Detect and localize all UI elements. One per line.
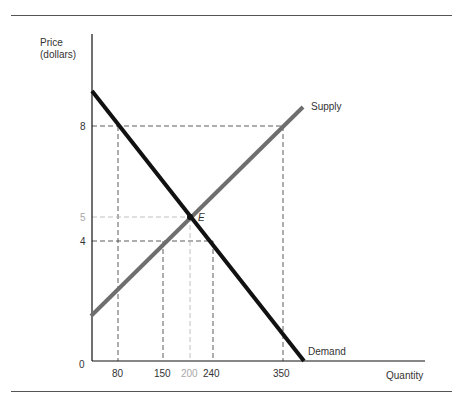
y-tick-4: 4 bbox=[80, 236, 86, 247]
equilibrium-guides bbox=[92, 217, 190, 361]
equilibrium-label: E bbox=[198, 212, 205, 223]
equilibrium-point bbox=[187, 214, 193, 220]
reference-lines bbox=[92, 126, 283, 361]
x-tick-200: 200 bbox=[181, 368, 198, 379]
x-tick-80: 80 bbox=[112, 368, 124, 379]
y-tick-8: 8 bbox=[80, 121, 86, 132]
x-tick-350: 350 bbox=[273, 368, 290, 379]
supply-label: Supply bbox=[311, 101, 342, 112]
y-axis-label-line1: Price bbox=[40, 37, 63, 48]
x-axis-label: Quantity bbox=[386, 370, 423, 381]
demand-label: Demand bbox=[308, 346, 346, 357]
y-tick-5: 5 bbox=[80, 212, 86, 223]
demand-curve bbox=[92, 91, 304, 361]
x-tick-240: 240 bbox=[203, 368, 220, 379]
y-axis-label-line2: (dollars) bbox=[40, 49, 76, 60]
supply-curve bbox=[91, 107, 303, 316]
supply-demand-chart: Price (dollars) 8 5 4 0 80 150 200 240 3… bbox=[0, 0, 454, 398]
origin-label: 0 bbox=[79, 359, 85, 370]
x-tick-150: 150 bbox=[154, 368, 171, 379]
